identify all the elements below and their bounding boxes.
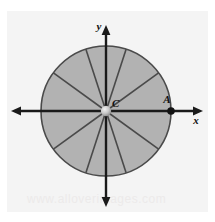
point-a-marker — [167, 107, 175, 115]
y-axis-label: y — [95, 20, 102, 32]
circle-sectors-figure: www.alloverimages.com — [0, 0, 215, 222]
watermark-text: www.alloverimages.com — [26, 192, 166, 206]
y-axis-arrow-up-icon — [102, 25, 111, 35]
x-axis-arrow-left-icon — [11, 107, 21, 116]
figure-root: www.alloverimages.com — [0, 0, 215, 222]
x-axis-label: x — [192, 114, 199, 126]
center-point-label: C — [112, 97, 120, 109]
point-a-label: A — [162, 93, 170, 105]
center-point-marker — [101, 106, 111, 116]
